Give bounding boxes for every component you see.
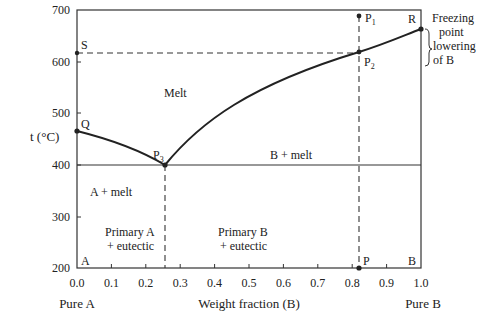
- y-axis-label: t (°C): [30, 129, 59, 144]
- region-melt: Melt: [164, 86, 187, 100]
- phase-diagram: 700 600 500 400 300 200 0.0 0.1 0.2 0.3 …: [0, 0, 481, 319]
- x-tick-10: 1.0: [414, 276, 429, 290]
- y-tick-300: 300: [52, 210, 70, 224]
- label-p2: P2: [364, 55, 375, 71]
- region-primary-a-line1: Primary A: [105, 225, 155, 239]
- x-tick-7: 0.7: [310, 276, 325, 290]
- x-tick-0: 0.0: [70, 276, 85, 290]
- svg-text:Freezing: Freezing: [432, 11, 474, 25]
- point-p1: [357, 14, 362, 19]
- y-tick-400: 400: [52, 158, 70, 172]
- svg-text:lowering: lowering: [433, 39, 476, 53]
- freezing-point-bracket: [425, 29, 432, 66]
- liquidus-b-curve: [165, 29, 421, 165]
- freezing-point-annotation: Freezing point lowering of B: [432, 11, 476, 67]
- region-a-melt: A + melt: [90, 185, 133, 199]
- x-tick-1: 0.1: [104, 276, 119, 290]
- x-tick-9: 0.9: [379, 276, 394, 290]
- point-p: [356, 265, 361, 270]
- y-tick-700: 700: [52, 3, 70, 17]
- x-tick-4: 0.4: [207, 276, 222, 290]
- label-p1: P1: [365, 11, 376, 27]
- y-tick-200: 200: [52, 261, 70, 275]
- liquidus-a-curve: [77, 131, 165, 165]
- x-tick-2: 0.2: [138, 276, 153, 290]
- region-primary-b-line2: + eutectic: [220, 239, 267, 253]
- y-tick-500: 500: [52, 106, 70, 120]
- x-axis-label: Weight fraction (B): [198, 296, 299, 311]
- point-p2: [357, 50, 362, 55]
- corner-label-b: B: [408, 254, 416, 268]
- point-s: [75, 51, 79, 55]
- region-primary-b-line1: Primary B: [218, 225, 268, 239]
- pure-b-label: Pure B: [405, 296, 441, 311]
- label-p3: P3: [153, 148, 164, 164]
- x-tick-5: 0.5: [242, 276, 257, 290]
- region-primary-a-line2: + eutectic: [107, 239, 154, 253]
- label-p: P: [363, 254, 370, 268]
- x-tick-3: 0.3: [173, 276, 188, 290]
- region-b-melt: B + melt: [270, 148, 313, 162]
- svg-text:point: point: [439, 25, 464, 39]
- point-r: [418, 26, 423, 31]
- label-r: R: [408, 12, 416, 26]
- x-tick-labels: 0.0 0.1 0.2 0.3 0.4 0.5 0.6 0.7 0.8 0.9 …: [70, 276, 429, 290]
- point-q: [74, 128, 79, 133]
- y-tick-600: 600: [52, 55, 70, 69]
- svg-text:of B: of B: [433, 53, 454, 67]
- corner-label-a: A: [81, 254, 90, 268]
- pure-a-label: Pure A: [59, 296, 95, 311]
- x-tick-8: 0.8: [345, 276, 360, 290]
- label-s: S: [81, 38, 88, 52]
- label-q: Q: [81, 117, 90, 131]
- x-tick-6: 0.6: [276, 276, 291, 290]
